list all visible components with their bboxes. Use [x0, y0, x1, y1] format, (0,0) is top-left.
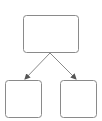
left-child-node: [6, 81, 42, 118]
right-child-node: [61, 81, 97, 118]
tree-diagram: [0, 0, 102, 121]
edge-root-to-left: [25, 53, 50, 79]
root-node: [24, 16, 79, 53]
edge-root-to-right: [50, 53, 76, 79]
